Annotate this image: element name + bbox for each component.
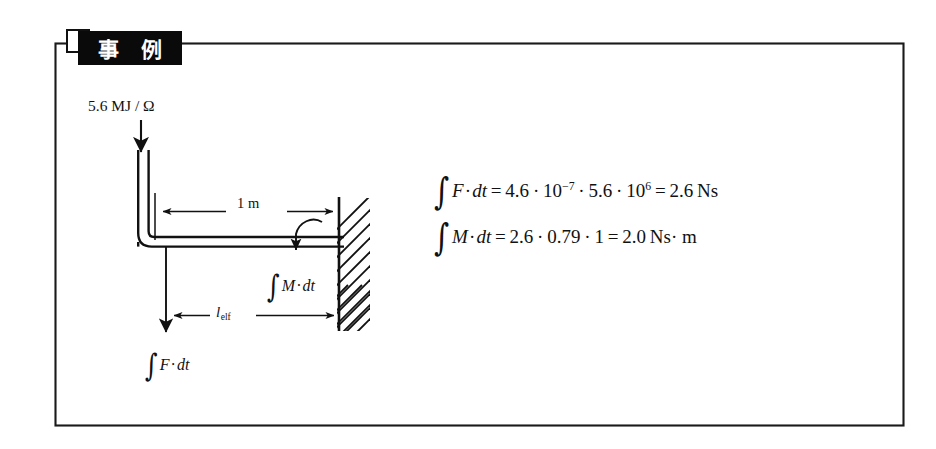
figure-badge-title: 事 例 xyxy=(78,31,182,65)
eq2-unit: Ns· m xyxy=(650,226,697,247)
multiplication-dot-icon: · xyxy=(612,180,626,201)
lelf-subscript: elf xyxy=(221,312,231,322)
wall xyxy=(310,162,404,408)
source-energy-label: 5.6 MJ / Ω xyxy=(88,98,155,114)
lelf-symbol: l xyxy=(216,304,220,320)
multiplication-dot-icon: · xyxy=(575,180,589,201)
force-symbol: F xyxy=(160,356,170,373)
equals-sign: = xyxy=(487,180,505,201)
moment-symbol: M xyxy=(282,277,295,294)
eq2-result: 2.0 xyxy=(622,226,646,247)
figure-page: 事 例 5.6 MJ / Ω 1 m lelf ∫M·dt ∫F·dt ∫F·d… xyxy=(0,0,936,449)
equals-sign: = xyxy=(604,226,622,247)
eq1-integrand: F xyxy=(452,180,464,201)
equals-sign: = xyxy=(491,226,509,247)
integral-sign-icon: ∫ xyxy=(434,219,449,256)
moment-integral-label: ∫M·dt xyxy=(265,265,315,296)
eq2-factor-2: 0.79 xyxy=(547,226,580,247)
eq2-integrand: M xyxy=(452,226,468,247)
eq1-power-b-base: 10 xyxy=(626,180,645,201)
eq1-power-a-exponent: −7 xyxy=(562,180,575,193)
force-differential: dt xyxy=(177,356,189,373)
eq1-differential: dt xyxy=(472,180,487,201)
multiplication-dot-icon: · xyxy=(581,226,595,247)
multiplication-dot-icon: · xyxy=(529,180,543,201)
integral-sign-icon: ∫ xyxy=(145,350,158,381)
eq1-coefficient-a: 4.6 xyxy=(505,180,529,201)
eq2-factor-1: 2.6 xyxy=(510,226,534,247)
multiplication-dot-icon: · xyxy=(533,226,547,247)
dimension-span-lelf xyxy=(174,300,339,331)
integral-sign-icon: ∫ xyxy=(434,173,449,210)
integral-sign-icon: ∫ xyxy=(267,271,280,302)
equals-sign: = xyxy=(651,180,669,201)
eq2-differential: dt xyxy=(476,226,491,247)
eq2-factor-3: 1 xyxy=(594,226,604,247)
eq1-power-a-base: 10 xyxy=(543,180,562,201)
dimension-label-1m: 1 m xyxy=(237,196,259,211)
dimension-label-lelf: lelf xyxy=(216,305,230,320)
eq1-coefficient-b: 5.6 xyxy=(589,180,613,201)
moment-differential: dt xyxy=(302,277,314,294)
equation-angular-impulse: ∫M·dt = 2.6 · 0.79 · 1 = 2.0 Ns· m xyxy=(432,212,697,249)
eq1-unit: Ns xyxy=(697,180,718,201)
force-integral-label: ∫F·dt xyxy=(143,344,189,375)
equation-impulse: ∫F·dt = 4.6 · 10−7 · 5.6 · 106 = 2.6 Ns xyxy=(432,166,718,203)
multiplication-dot-icon: · xyxy=(464,180,473,201)
eq1-result: 2.6 xyxy=(669,180,693,201)
multiplication-dot-icon: · xyxy=(170,356,177,373)
